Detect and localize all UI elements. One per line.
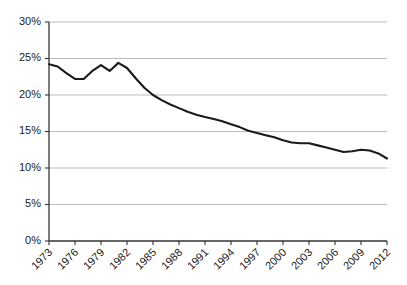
y-tick-label: 0% [25,234,41,246]
y-tick-label: 20% [19,88,41,100]
y-tick-label: 5% [25,197,41,209]
y-tick-label: 25% [19,51,41,63]
line-chart: 0%5%10%15%20%25%30% 19731976197919821985… [0,0,407,285]
y-tick-label: 10% [19,161,41,173]
chart-canvas: 0%5%10%15%20%25%30% 19731976197919821985… [0,0,407,285]
y-tick-label: 15% [19,124,41,136]
y-tick-label: 30% [19,15,41,27]
chart-background [0,0,407,285]
